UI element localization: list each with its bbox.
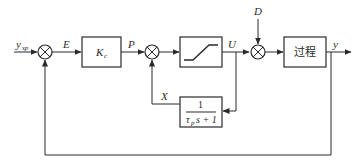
controller-gain-label: K xyxy=(95,46,104,58)
error-label: E xyxy=(62,38,70,50)
block-diagram: y sp E K c P U D xyxy=(0,0,361,166)
filter-tau-subscript: p xyxy=(190,119,195,127)
filter-denominator-rest: s + 1 xyxy=(196,114,217,125)
controller-output-label: P xyxy=(127,38,135,50)
sum-error-junction-icon xyxy=(38,45,52,59)
process-output-label: y xyxy=(332,38,338,50)
limiter-block xyxy=(180,37,222,67)
process-block: 过程 xyxy=(284,37,326,67)
controller-block: K c xyxy=(82,37,121,67)
sum-positive-feedback-junction-icon xyxy=(145,45,159,59)
filter-output-label: X xyxy=(160,90,169,102)
limiter-output-label: U xyxy=(228,38,237,50)
filter-tau: τ xyxy=(186,114,190,125)
filter-input-line xyxy=(223,52,236,111)
setpoint-label: y xyxy=(15,38,21,50)
setpoint-subscript: sp xyxy=(22,44,29,52)
sum-disturbance-junction-icon xyxy=(251,45,265,59)
disturbance-label: D xyxy=(253,5,262,17)
filter-numerator: 1 xyxy=(198,99,203,110)
setpoint-signal: y sp xyxy=(14,38,37,52)
process-label: 过程 xyxy=(294,46,316,59)
filter-block: 1 τ p s + 1 xyxy=(180,97,222,127)
